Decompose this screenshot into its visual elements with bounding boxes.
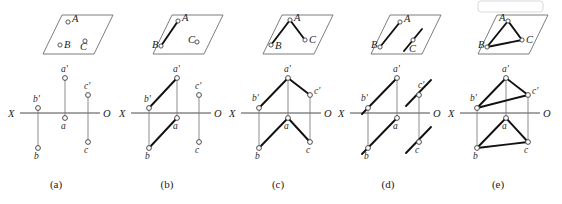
panel-caption-e: (e) (492, 178, 505, 191)
panel-a: A B C X O a' (7, 13, 113, 191)
panel-b: A B C X O (118, 12, 223, 191)
panel-c-space-point-C: C (303, 34, 317, 45)
axis-label-X: X (447, 108, 455, 119)
panel-c-point-c: c (306, 140, 312, 155)
panel-e-point-b-prime: b' (470, 93, 479, 110)
panel-caption-d: (d) (382, 178, 395, 191)
panel-a-projection: X O a' b' c' (7, 64, 111, 161)
panel-e-projection-segment-b-c (477, 142, 528, 148)
space-label-B: B (152, 39, 159, 50)
label-b-prime: b' (252, 93, 260, 103)
panel-e-point-a: a (502, 116, 508, 131)
panel-b-point-c: c (195, 140, 201, 155)
space-label-B: B (478, 39, 485, 50)
label-a: a (173, 121, 178, 131)
panel-b-point-a: a (173, 116, 179, 131)
panel-e-point-b: b (473, 146, 479, 161)
label-b-prime: b' (361, 93, 369, 103)
label-a: a (284, 121, 289, 131)
panel-c-point-a: a (284, 116, 290, 131)
panel-a-point-c-prime: c' (84, 81, 91, 97)
label-c-prime: c' (418, 80, 425, 90)
panel-e-point-a-prime: a' (502, 64, 510, 80)
panel-c-point-b: b (255, 146, 261, 161)
panel-d-point-b-prime: b' (361, 93, 370, 110)
axis-label-O: O (324, 108, 332, 119)
label-a-prime: a' (284, 64, 292, 74)
panel-c: A B C X O (228, 12, 333, 191)
space-label-A: A (181, 12, 189, 23)
panel-d-space-point-C: C (409, 38, 417, 54)
label-b: b (473, 151, 478, 161)
label-b: b (255, 151, 260, 161)
panel-c-space-point-A: A (288, 12, 301, 23)
label-a-prime: a' (502, 64, 510, 74)
figure-canvas: A B C X O a' (0, 0, 562, 204)
panel-c-point-a-prime: a' (284, 64, 292, 80)
space-label-C: C (526, 34, 534, 45)
axis-label-X: X (337, 108, 345, 119)
panel-d-point-a-prime: a' (393, 64, 401, 80)
panel-a-point-a-prime: a' (61, 64, 69, 80)
space-label-C: C (188, 34, 196, 45)
panel-e-projection-segment-a-c (506, 118, 528, 142)
panel-c-projection-segment-a-c (288, 118, 310, 142)
label-a-prime: a' (173, 64, 181, 74)
panel-e-space-point-B: B (478, 39, 489, 50)
space-label-C: C (80, 41, 88, 52)
panel-b-projection: X O a' b' (118, 64, 222, 161)
panel-d-point-a: a (393, 116, 399, 131)
label-c: c (84, 145, 89, 155)
panel-c-projection: X O a' (228, 64, 332, 161)
label-a-prime: a' (61, 64, 69, 74)
space-label-B: B (371, 39, 378, 50)
space-label-B: B (64, 39, 71, 50)
panel-a-space-point-B: B (58, 39, 71, 50)
axis-label-X: X (7, 108, 15, 119)
space-label-A: A (498, 12, 506, 23)
space-label-C: C (409, 43, 417, 54)
panel-e-projection: X O (447, 64, 551, 161)
label-c-prime: c' (84, 81, 91, 91)
panel-b-space-point-A: A (176, 12, 189, 23)
panel-a-point-c: c (84, 140, 90, 155)
label-a-prime: a' (393, 64, 401, 74)
panel-c-projection-segment-a-prime-c-prime (288, 78, 310, 95)
panel-caption-c: (c) (272, 178, 285, 191)
label-a: a (61, 121, 66, 131)
label-b: b (34, 151, 39, 161)
panel-d-point-c-prime: c' (417, 80, 426, 97)
panel-caption-b: (b) (161, 178, 174, 191)
axis-label-O: O (433, 108, 441, 119)
label-b-prime: b' (470, 93, 478, 103)
axis-label-O: O (214, 108, 222, 119)
label-b-prime: b' (33, 94, 41, 104)
axis-label-O: O (543, 108, 551, 119)
label-c: c (524, 145, 529, 155)
space-label-A: A (71, 13, 79, 24)
panel-b-point-b: b (145, 146, 151, 161)
panel-b-space-point-C: C (188, 34, 199, 45)
panel-a-point-b-prime: b' (33, 94, 41, 110)
scan-artifact (478, 1, 543, 12)
label-c-prime: c' (314, 86, 321, 96)
panel-d-space-segment-AB (380, 22, 400, 47)
panel-a-point-b: b (34, 146, 40, 161)
panel-d-point-b: b (364, 146, 370, 161)
space-label-B: B (275, 40, 282, 51)
axis-label-X: X (228, 108, 236, 119)
label-c-prime: c' (532, 86, 539, 96)
label-c: c (415, 145, 420, 155)
panel-c-point-c-prime: c' (308, 86, 322, 97)
panel-e-point-c-prime: c' (526, 86, 540, 97)
panel-c-space-segment-AC (290, 20, 305, 40)
label-a: a (393, 121, 398, 131)
panel-b-space-point-B: B (152, 39, 163, 50)
label-c-prime: c' (195, 81, 202, 91)
label-b-prime: b' (144, 94, 152, 104)
panel-e-space-segment-AC (508, 21, 522, 40)
panel-c-point-b-prime: b' (252, 93, 261, 110)
axis-label-X: X (118, 108, 126, 119)
panel-a-point-a: a (61, 116, 67, 131)
panel-b-point-b-prime: b' (144, 94, 152, 110)
